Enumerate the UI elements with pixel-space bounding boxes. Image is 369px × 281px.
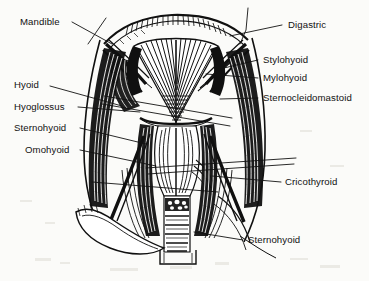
label-mandible: Mandible bbox=[20, 16, 60, 27]
trachea bbox=[164, 196, 190, 252]
anatomy-illustration-svg: Mandible Hyoid Hyoglossus Sternohyoid Om… bbox=[0, 0, 369, 281]
label-sternocleidomastoid: Sternocleidomastoid bbox=[263, 92, 352, 103]
label-sternohyoid-upper: Sternohyoid bbox=[14, 122, 66, 133]
label-hyoglossus: Hyoglossus bbox=[14, 101, 65, 112]
label-mylohyoid: Mylohyoid bbox=[263, 72, 307, 83]
label-digastric: Digastric bbox=[288, 19, 326, 30]
label-omohyoid: Omohyoid bbox=[25, 144, 70, 155]
label-hyoid: Hyoid bbox=[14, 79, 39, 90]
anatomy-figure: Mandible Hyoid Hyoglossus Sternohyoid Om… bbox=[0, 0, 369, 281]
label-cricothyroid: Cricothyroid bbox=[285, 176, 337, 187]
label-stylohyoid: Stylohyoid bbox=[263, 54, 308, 65]
label-sternohyoid-lower: Sternohyoid bbox=[248, 234, 300, 245]
